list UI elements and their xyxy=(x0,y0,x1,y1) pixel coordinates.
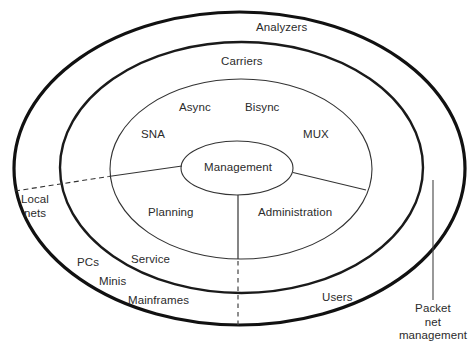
label-analyzers: Analyzers xyxy=(256,21,307,34)
label-carriers: Carriers xyxy=(221,55,263,68)
label-packet-net-management: Packet net management xyxy=(397,302,469,343)
label-users: Users xyxy=(322,291,353,304)
diagram-canvas: Analyzers Carriers Async Bisync SNA MUX … xyxy=(0,0,471,345)
divider-right-solid xyxy=(293,173,366,191)
label-local-nets-line2: nets xyxy=(24,207,46,219)
label-administration: Administration xyxy=(258,206,332,219)
label-packet-net-management-line1: Packet xyxy=(415,302,451,314)
label-pcs: PCs xyxy=(77,256,99,269)
label-mainframes: Mainframes xyxy=(128,294,189,307)
label-planning: Planning xyxy=(148,206,194,219)
label-minis: Minis xyxy=(99,275,126,288)
label-service: Service xyxy=(131,253,170,266)
label-async: Async xyxy=(179,101,211,114)
divider-left-solid xyxy=(109,166,183,177)
label-local-nets: Local nets xyxy=(8,193,62,220)
label-management: Management xyxy=(204,161,272,174)
label-bisync: Bisync xyxy=(245,101,279,114)
label-packet-net-management-line2: net xyxy=(425,316,441,328)
label-packet-net-management-line3: management xyxy=(399,329,467,341)
label-local-nets-line1: Local xyxy=(21,193,49,205)
label-mux: MUX xyxy=(303,128,329,141)
label-sna: SNA xyxy=(141,128,165,141)
